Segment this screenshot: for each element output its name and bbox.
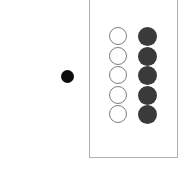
open-circle-3[interactable] <box>109 66 127 84</box>
filled-circle-4[interactable] <box>138 86 157 105</box>
open-circle-4[interactable] <box>109 86 127 104</box>
set-container-panel <box>89 0 178 158</box>
filled-circle-3[interactable] <box>138 66 157 85</box>
outside-marker-dot[interactable] <box>61 70 74 83</box>
filled-circle-2[interactable] <box>138 47 157 66</box>
filled-circle-5[interactable] <box>138 105 157 124</box>
filled-circle-1[interactable] <box>138 27 157 46</box>
canvas <box>0 0 188 190</box>
open-circle-2[interactable] <box>109 47 127 65</box>
filled-circle-column <box>138 27 157 124</box>
open-circle-1[interactable] <box>109 27 127 45</box>
open-circle-5[interactable] <box>109 105 127 123</box>
open-circle-column <box>109 27 127 123</box>
